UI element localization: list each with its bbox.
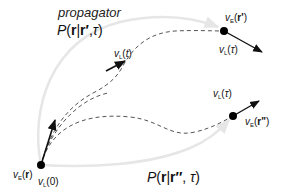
- label-vL-tau-top: vL(τ): [219, 45, 238, 56]
- propagator-arc-bottom: [41, 120, 229, 166]
- label-vL-0: vL(0): [38, 177, 59, 188]
- paren-close: ): [29, 169, 32, 180]
- bottom-propagator-formula: P(r|r′′, τ): [147, 170, 200, 184]
- paren-close: ): [244, 12, 247, 23]
- paren-close: ): [98, 22, 103, 38]
- vector-vL0: [41, 120, 55, 165]
- symbol-P: P: [57, 22, 66, 38]
- label-vE-r: vE(r): [13, 170, 33, 181]
- propagator-arc-top: [38, 17, 218, 165]
- point-end-bottom: [229, 112, 237, 120]
- paren-close: ): [128, 48, 131, 59]
- vector-vLt: [106, 61, 125, 71]
- label-vL-tau-bottom: vL(τ): [213, 89, 232, 100]
- comma: ,: [182, 169, 190, 185]
- title-propagator-formula: P(r|r′,τ): [57, 23, 103, 37]
- label-vL-t: vL(t): [114, 49, 132, 60]
- point-end-top: [220, 27, 228, 35]
- title-propagator: propagator: [58, 6, 121, 19]
- label-vE-r-prime: vE(r'): [225, 13, 247, 24]
- paren-close: ): [228, 88, 231, 99]
- arg: r": [257, 116, 266, 127]
- vector-vLtau-bottom: [233, 101, 259, 116]
- symbol-r-double-prime: r′′: [170, 169, 182, 185]
- propagator-diagram: propagator P(r|r′,τ) P(r|r′′, τ) vE(r) v…: [0, 0, 284, 193]
- trajectory-middle: [41, 93, 108, 165]
- symbol-r-prime: r′: [80, 22, 89, 38]
- symbol-P: P: [147, 169, 156, 185]
- paren-close: ): [195, 169, 200, 185]
- point-origin: [37, 161, 45, 169]
- paren-close: ): [234, 44, 237, 55]
- diagram-graphics: [0, 0, 284, 193]
- label-vE-r-double-prime: vE(r"): [245, 117, 269, 128]
- paren-close: ): [266, 116, 269, 127]
- arg: (0): [46, 176, 58, 187]
